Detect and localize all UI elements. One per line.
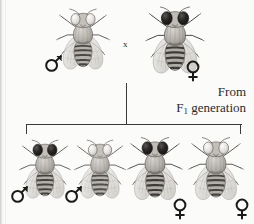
sex-symbol-male-offspring-2 (64, 184, 84, 204)
caption-line-from: From (176, 84, 246, 100)
sex-symbol-male-offspring-1 (10, 184, 30, 204)
page-edge-line (5, 0, 6, 224)
f1-generation-caption: From F1 generation (176, 84, 246, 117)
cross-symbol: x (123, 39, 128, 49)
caption-generation-word: generation (188, 100, 246, 115)
bracket-top-line (26, 124, 242, 125)
page-edge-shadow (0, 0, 3, 224)
drosophila-cross-figure: x From F1 generation (0, 0, 254, 224)
sex-symbol-male-parent (44, 53, 64, 73)
sex-symbol-female-parent (184, 60, 202, 82)
descent-line (126, 83, 127, 125)
sex-symbol-female-offspring-4 (233, 198, 251, 220)
caption-line-f1-generation: F1 generation (176, 100, 246, 117)
